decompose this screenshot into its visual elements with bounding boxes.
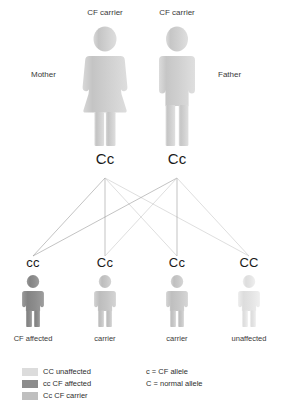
child-1-caption: CF affected [3,334,63,343]
legend-row-affected: cc CF affected [22,378,91,389]
father-figure [152,26,202,146]
legend-swatch-affected [22,380,38,388]
father-genotype: Cc [132,151,222,167]
father-role-label: Father [218,70,241,80]
father-status-label: CF carrier [132,8,222,18]
legend-label-unaffected: CC unaffected [43,367,91,376]
line-father-child-2 [105,178,177,256]
cf-inheritance-diagram: CF carrier CF carrier Mother Father [0,0,290,420]
child-4-genotype: CC [219,256,279,270]
child-figure-icon [161,275,193,327]
pedigree-connector-lines [0,0,290,420]
line-father-child-4 [177,178,249,256]
child-4-figure [233,275,265,327]
female-figure-icon [77,26,133,146]
allele-key-normal: C = normal allele [146,378,202,389]
child-figure-icon [89,275,121,327]
mother-role-label: Mother [31,70,56,80]
allele-key-cf: c = CF allele [146,366,202,377]
legend-allele-key: c = CF allele C = normal allele [146,366,202,390]
line-mother-child-3 [105,178,177,256]
child-3-genotype: Cc [147,256,207,270]
child-2-genotype: Cc [75,256,135,270]
legend-swatch-unaffected [22,368,38,376]
child-1-genotype: cc [3,256,63,270]
child-2-caption: carrier [75,334,135,343]
mother-figure [77,26,133,146]
child-1-figure [17,275,49,327]
male-figure-icon [152,26,202,146]
line-mother-child-4 [105,178,249,256]
child-2-figure [89,275,121,327]
line-father-child-1 [33,178,177,256]
child-figure-icon [17,275,49,327]
child-figure-icon [233,275,265,327]
legend-label-carrier: Cc CF carrier [43,391,88,400]
legend-swatch-carrier [22,392,38,400]
child-3-caption: carrier [147,334,207,343]
legend-row-carrier: Cc CF carrier [22,390,91,401]
line-mother-child-1 [33,178,105,256]
legend-genotype-key: CC unaffected cc CF affected Cc CF carri… [22,366,91,402]
legend-label-affected: cc CF affected [43,379,91,388]
child-3-figure [161,275,193,327]
legend-row-unaffected: CC unaffected [22,366,91,377]
child-4-caption: unaffected [219,334,279,343]
